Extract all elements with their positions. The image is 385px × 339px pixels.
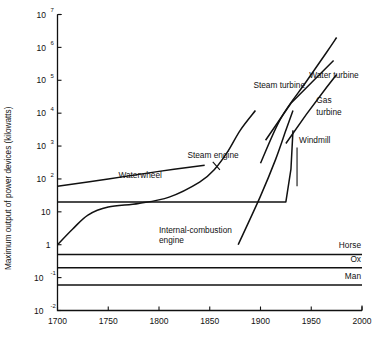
y-tick-base: 10 [34,273,44,283]
x-tick-label: 1950 [302,316,321,326]
series-line-windmill [58,130,293,202]
y-axis-title: Maximum output of power devices (kilowat… [4,106,13,270]
x-tick-label: 1800 [150,316,169,326]
y-tick-exponent: 5 [51,73,55,79]
annotation-label: engine [159,235,184,245]
x-tick-label: 1700 [48,316,67,326]
annotation-label: Steam engine [187,150,239,160]
annotation-label: Gas [316,95,331,105]
chart-annotations: WaterwheelSteam engineSteam turbineWater… [118,70,361,281]
y-tick-base: 10 [37,174,47,184]
series-line-internal-combustion-engine [238,111,293,245]
y-tick-exponent: 3 [51,139,55,145]
annotation-label: Steam turbine [253,80,305,90]
y-tick-base: 10 [41,207,51,217]
x-tick-label: 1750 [99,316,118,326]
y-tick-base: 10 [37,75,47,85]
x-tick-label: 1900 [251,316,270,326]
x-tick-label: 1850 [200,316,219,326]
y-axis-title-group: Maximum output of power devices (kilowat… [4,106,13,270]
y-tick-label: 106 [37,40,55,52]
x-tick-label: 2000 [353,316,372,326]
y-tick-label: 102 [37,172,55,184]
annotation-label: Ox [350,254,361,264]
y-tick-exponent: 2 [51,172,55,178]
annotation-label: Water turbine [309,70,359,80]
annotation-label: Horse [339,240,362,250]
y-tick-label: 10-2 [34,303,56,315]
y-tick-base: 1 [46,240,51,250]
y-tick-label: 104 [37,106,55,118]
y-tick-base: 10 [37,10,47,20]
y-tick-exponent: 7 [51,7,55,13]
y-tick-base: 10 [37,141,47,151]
x-axis-ticks: 1700175018001850190019502000 [48,307,372,326]
annotation-label: Windmill [299,135,331,145]
annotation-label: turbine [316,107,342,117]
annotation-label: Waterwheel [118,170,162,180]
y-tick-exponent: 6 [51,40,55,46]
y-tick-label: 103 [37,139,55,151]
y-tick-label: 105 [37,73,55,85]
y-tick-base: 10 [37,108,47,118]
annotation-label: Man [345,271,362,281]
y-tick-exponent: 4 [51,106,55,112]
annotation-label: Internal-combustion [159,225,232,235]
chart-axes [58,15,363,311]
y-tick-label: 1 [46,240,51,250]
y-tick-base: 10 [37,43,47,53]
chart-canvas: Maximum output of power devices (kilowat… [0,0,385,339]
y-tick-label: 10 [41,207,51,217]
y-tick-label: 10-1 [34,270,56,282]
y-tick-exponent: -2 [51,303,57,309]
y-tick-label: 107 [37,7,55,19]
y-tick-exponent: -1 [51,270,57,276]
y-tick-base: 10 [34,306,44,316]
power-output-chart: Maximum output of power devices (kilowat… [0,0,385,339]
